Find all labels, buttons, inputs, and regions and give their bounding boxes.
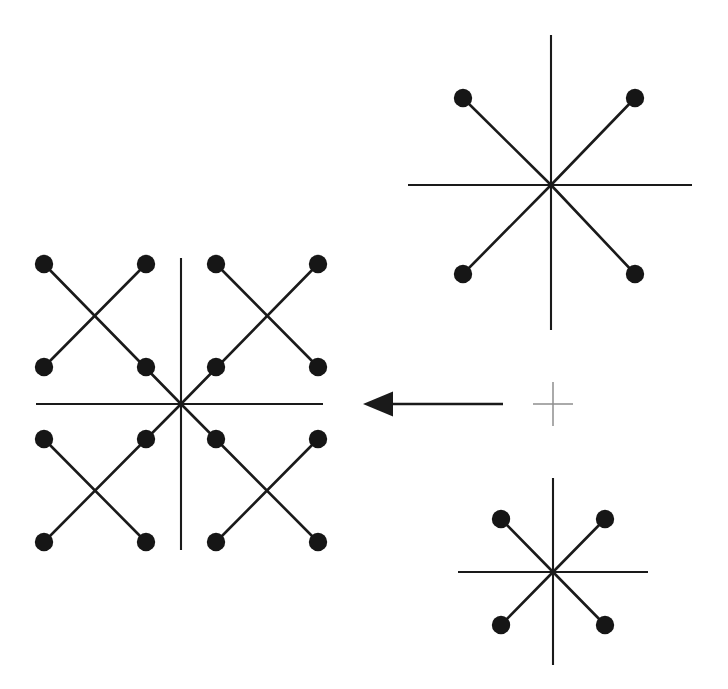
composite-star-left-dot-14 <box>207 533 225 551</box>
source-star-bottom-right-dot-3 <box>596 616 614 634</box>
composite-star-left-dot-8 <box>35 430 53 448</box>
composite-star-left-dot-0 <box>35 255 53 273</box>
composite-star-left-dot-1 <box>137 255 155 273</box>
composite-star-left-dot-2 <box>35 358 53 376</box>
composite-star-left-dot-6 <box>207 358 225 376</box>
source-star-top-right-dot-0 <box>454 89 472 107</box>
composite-star-left-dot-10 <box>35 533 53 551</box>
source-star-top-right-dot-3 <box>626 265 644 283</box>
source-star-bottom-right-dot-2 <box>492 616 510 634</box>
composite-star-left-dot-5 <box>309 255 327 273</box>
composite-star-left-dot-11 <box>137 533 155 551</box>
star-transformation-diagram <box>0 0 728 689</box>
source-star-bottom-right-dot-1 <box>596 510 614 528</box>
composite-star-left-dot-4 <box>207 255 225 273</box>
composite-star-left-dot-7 <box>309 358 327 376</box>
composite-star-left-dot-12 <box>207 430 225 448</box>
composite-star-left-dot-15 <box>309 533 327 551</box>
diagram-canvas <box>0 0 728 689</box>
composite-star-left <box>35 255 327 551</box>
composite-star-left-dot-9 <box>137 430 155 448</box>
composite-star-left-dot-3 <box>137 358 155 376</box>
composite-star-left-dot-13 <box>309 430 327 448</box>
source-star-top-right-dot-2 <box>454 265 472 283</box>
source-star-bottom-right-dot-0 <box>492 510 510 528</box>
diagram-background <box>0 0 728 689</box>
source-star-top-right-dot-1 <box>626 89 644 107</box>
